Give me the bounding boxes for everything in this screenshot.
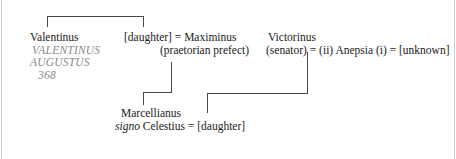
sibling-bracket-top [47, 16, 144, 17]
victorinus-marriage: (senator) = (ii) Anepsia (i) = [unknown] [266, 44, 450, 56]
sibling-bracket-right [143, 16, 144, 27]
daughter-drop-line [207, 93, 208, 113]
maximinus-role: (praetorian prefect) [160, 44, 249, 56]
valentinus-title-line1: VALENTINUS [32, 44, 100, 56]
valentinus-title-line2: AUGUSTUS [30, 56, 90, 68]
maximinus-descent-horizontal [143, 92, 172, 93]
person-victorinus: Victorinus [268, 31, 316, 43]
frame-right-border [454, 0, 455, 159]
sibling-bracket-left [47, 16, 48, 27]
signo-label: signo [115, 120, 140, 132]
person-marcellianus: Marcellianus [121, 107, 181, 119]
celestius-marriage-text: Celestius = [daughter] [140, 120, 245, 132]
maximinus-descent-line [171, 62, 172, 93]
marcellianus-drop-line [143, 92, 144, 105]
person-maximinus-marriage: [daughter] = Maximinus [124, 31, 237, 43]
valentinus-year: 368 [38, 69, 56, 81]
marcellianus-marriage: signo Celestius = [daughter] [115, 120, 245, 132]
person-valentinus: Valentinus [30, 31, 79, 43]
victorinus-descent-line [307, 52, 308, 94]
victorinus-descent-horizontal [207, 93, 308, 94]
frame-left-border [1, 0, 2, 159]
